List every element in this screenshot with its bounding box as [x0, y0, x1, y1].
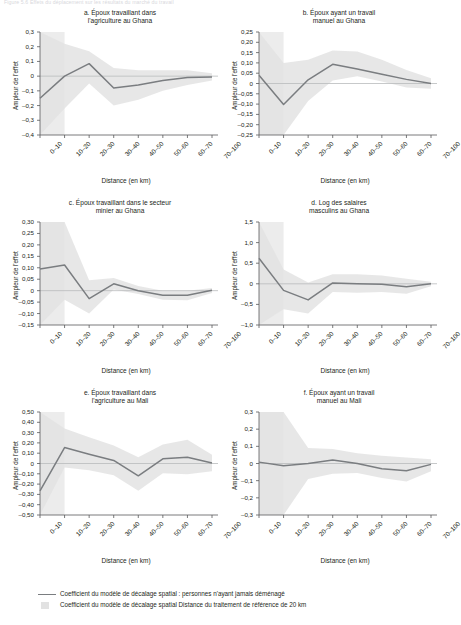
panel-plot-f — [219, 387, 437, 577]
x-tick-label: 70–100 — [441, 330, 461, 350]
panel-d: d. Log des salairesmasculins au Ghana1,5… — [219, 197, 437, 387]
x-axis-title: Distance (en km) — [259, 177, 431, 184]
y-axis-title: Ampleur de l'effet — [231, 251, 238, 300]
confidence-band — [40, 222, 212, 325]
panel-plot-e — [0, 387, 218, 577]
y-axis-title: Ampleur de l'effet — [12, 441, 19, 490]
y-axis-title: Ampleur de l'effet — [231, 441, 238, 490]
legend-line-label: Coefficient du modèle de décalage spatia… — [60, 590, 285, 597]
legend-band-label: Coefficient du modèle de décalage spatia… — [60, 601, 306, 608]
faded-header-strip: Figure 5.6 Effets du déplacement sur les… — [0, 0, 437, 7]
panel-e: e. Époux travaillant dansl'agriculture a… — [0, 387, 218, 577]
x-axis-title: Distance (en km) — [40, 557, 212, 564]
panel-plot-d — [219, 197, 437, 387]
panel-f: f. Époux ayant un travailmanuel au Mali0… — [219, 387, 437, 577]
legend-line-swatch — [38, 594, 56, 595]
panel-plot-a — [0, 7, 218, 197]
panel-grid: a. Époux travaillant dansl'agriculture a… — [0, 7, 437, 577]
x-axis-title: Distance (en km) — [259, 367, 431, 374]
faded-header-text: Figure 5.6 Effets du déplacement sur les… — [0, 0, 437, 5]
y-axis-title: Ampleur de l'effet — [12, 61, 19, 110]
x-axis-title: Distance (en km) — [40, 177, 212, 184]
confidence-band — [259, 222, 431, 325]
y-axis-title: Ampleur de l'effet — [12, 251, 19, 300]
x-axis-title: Distance (en km) — [40, 367, 212, 374]
x-tick-label: 70–100 — [441, 140, 461, 160]
panel-plot-b — [219, 7, 437, 197]
confidence-band — [40, 32, 212, 135]
panel-a: a. Époux travaillant dansl'agriculture a… — [0, 7, 218, 197]
panel-plot-c — [0, 197, 218, 387]
legend-band-swatch — [41, 602, 49, 609]
x-axis-title: Distance (en km) — [259, 557, 431, 564]
panel-b: b. Époux ayant un travailmanuel au Ghana… — [219, 7, 437, 197]
chart-legend: Coefficient du modèle de décalage spatia… — [0, 588, 437, 622]
y-axis-title: Ampleur de l'effet — [231, 61, 238, 110]
panel-c: c. Époux travaillant dans le secteurmini… — [0, 197, 218, 387]
x-tick-label: 70–100 — [441, 520, 461, 540]
